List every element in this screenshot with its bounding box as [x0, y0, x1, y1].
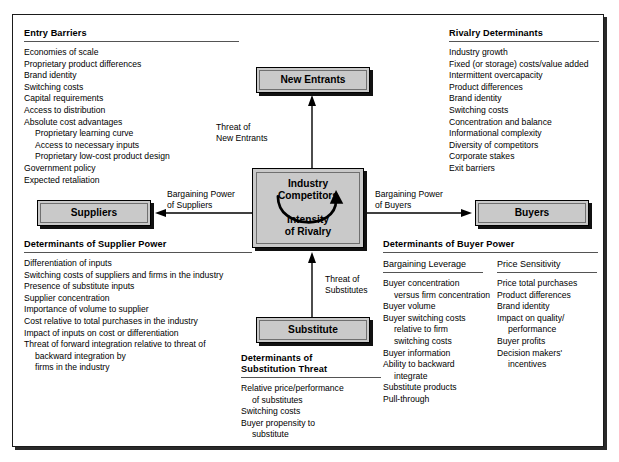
block-determinants-of-substitution-threat-items: Relative price/performanceof substitutes… [241, 383, 381, 441]
list-item: Product differences [449, 82, 599, 94]
node-substitute[interactable]: Substitute [256, 317, 370, 343]
list-item: Pull-through [383, 394, 483, 406]
list-item: Diversity of competitors [449, 140, 599, 152]
list-item: Switching costs [24, 82, 239, 94]
node-suppliers[interactable]: Suppliers [37, 200, 151, 226]
node-new-entrants-inner: New Entrants [259, 70, 367, 90]
list-item: Proprietary learning curve [24, 128, 239, 140]
list-item: Intermittent overcapacity [449, 70, 599, 82]
block-determinants-of-substitution-threat-rule [241, 377, 381, 378]
buyer-power-column-bargaining-leverage: Bargaining Leverage Buyer concentrationv… [383, 258, 483, 406]
list-item: Buyer concentration [383, 278, 483, 290]
list-item: Switching costs of suppliers and firms i… [24, 270, 252, 282]
list-item: substitute [241, 429, 381, 441]
edge-label-bargaining-power-of-suppliers: Bargaining Power of Suppliers [167, 189, 235, 211]
buyer-power-column-bargaining-leverage-heading: Bargaining Leverage [383, 258, 483, 270]
block-determinants-of-substitution-threat-title-line2: Substitution Threat [241, 364, 381, 375]
block-determinants-of-buyer-power-columns: Bargaining Leverage Buyer concentrationv… [383, 258, 598, 406]
block-determinants-of-buyer-power: Determinants of Buyer Power Bargaining L… [383, 239, 598, 406]
list-item: incentives [497, 359, 597, 371]
list-item: Corporate stakes [449, 151, 599, 163]
node-industry-competitors-title-line1: Industry [278, 178, 338, 190]
list-item: relative to firm [383, 324, 483, 336]
list-item: Buyer volume [383, 301, 483, 313]
block-entry-barriers-items: Economies of scaleProprietary product di… [24, 47, 239, 186]
list-item: Buyer profits [497, 336, 597, 348]
node-industry-competitors-subtitle-line2: of Rivalry [285, 226, 331, 238]
list-item: performance [497, 324, 597, 336]
list-item: integrate [383, 371, 483, 383]
edge-label-bargaining-power-of-buyers-line1: Bargaining Power [375, 189, 443, 200]
edge-label-bargaining-power-of-buyers: Bargaining Power of Buyers [375, 189, 443, 211]
node-industry-competitors-title-line2: Competitors [278, 190, 338, 202]
list-item: Capital requirements [24, 93, 239, 105]
list-item: Industry growth [449, 47, 599, 59]
block-determinants-of-supplier-power-title: Determinants of Supplier Power [24, 239, 252, 250]
list-item: Buyer propensity to [241, 418, 381, 430]
block-entry-barriers: Entry Barriers Economies of scaleProprie… [24, 28, 239, 186]
list-item: firms in the industry [24, 362, 252, 374]
node-substitute-inner: Substitute [259, 320, 367, 340]
edge-label-threat-of-substitutes-line1: Threat of [325, 274, 368, 285]
edge-label-bargaining-power-of-suppliers-line2: of Suppliers [167, 200, 235, 211]
list-item: Brand identity [497, 301, 597, 313]
block-determinants-of-supplier-power-items: Differentiation of inputsSwitching costs… [24, 258, 252, 374]
list-item: Price total purchases [497, 278, 597, 290]
block-rivalry-determinants-items: Industry growthFixed (or storage) costs/… [449, 47, 599, 175]
list-item: Proprietary low-cost product design [24, 151, 239, 163]
node-suppliers-label: Suppliers [71, 207, 117, 219]
edge-label-threat-of-substitutes-line2: Substitutes [325, 285, 368, 296]
block-determinants-of-buyer-power-title: Determinants of Buyer Power [383, 239, 598, 250]
buyer-power-column-bargaining-leverage-rule [383, 272, 483, 273]
block-determinants-of-supplier-power: Determinants of Supplier Power Different… [24, 239, 252, 374]
diagram-canvas: New Entrants Substitute Suppliers Buyers… [0, 0, 619, 462]
list-item: Proprietary product differences [24, 59, 239, 71]
list-item: Access to distribution [24, 105, 239, 117]
block-rivalry-determinants-rule [449, 41, 599, 42]
node-industry-competitors-title: Industry Competitors [278, 178, 338, 201]
list-item: Cost relative to total purchases in the … [24, 316, 252, 328]
list-item: of substitutes [241, 395, 381, 407]
list-item: Switching costs [449, 105, 599, 117]
list-item: Differentiation of inputs [24, 258, 252, 270]
list-item: Product differences [497, 290, 597, 302]
list-item: Relative price/performance [241, 383, 381, 395]
buyer-power-column-price-sensitivity-heading: Price Sensitivity [497, 258, 597, 270]
list-item: Decision makers' [497, 348, 597, 360]
buyer-power-column-price-sensitivity-rule [497, 272, 597, 273]
node-buyers-label: Buyers [515, 207, 550, 219]
list-item: Presence of substitute inputs [24, 281, 252, 293]
block-determinants-of-buyer-power-rule [383, 252, 598, 253]
edge-label-bargaining-power-of-buyers-line2: of Buyers [375, 200, 443, 211]
node-new-entrants[interactable]: New Entrants [256, 67, 370, 93]
block-rivalry-determinants: Rivalry Determinants Industry growthFixe… [449, 28, 599, 175]
node-industry-competitors-subtitle-line1: Intensity [285, 214, 331, 226]
list-item: Buyer information [383, 348, 483, 360]
list-item: Brand identity [24, 70, 239, 82]
node-buyers-inner: Buyers [478, 203, 586, 223]
list-item: Switching costs [241, 406, 381, 418]
node-suppliers-inner: Suppliers [40, 203, 148, 223]
node-buyers[interactable]: Buyers [475, 200, 589, 226]
list-item: Importance of volume to supplier [24, 304, 252, 316]
block-entry-barriers-title: Entry Barriers [24, 28, 239, 39]
list-item: Buyer switching costs [383, 313, 483, 325]
list-item: Substitute products [383, 382, 483, 394]
list-item: switching costs [383, 336, 483, 348]
node-industry-competitors[interactable]: Industry Competitors Intensity of Rivalr… [252, 168, 364, 248]
list-item: Absolute cost advantages [24, 117, 239, 129]
list-item: Impact on quality/ [497, 313, 597, 325]
list-item: Supplier concentration [24, 293, 252, 305]
edge-label-bargaining-power-of-suppliers-line1: Bargaining Power [167, 189, 235, 200]
list-item: Impact of inputs on cost or differentiat… [24, 328, 252, 340]
block-entry-barriers-rule [24, 41, 239, 42]
list-item: Fixed (or storage) costs/value added [449, 59, 599, 71]
list-item: Concentration and balance [449, 117, 599, 129]
node-industry-competitors-inner: Industry Competitors Intensity of Rivalr… [256, 172, 360, 244]
list-item: Informational complexity [449, 128, 599, 140]
node-substitute-label: Substitute [288, 324, 338, 336]
edge-label-threat-of-substitutes: Threat of Substitutes [325, 274, 368, 296]
block-rivalry-determinants-title: Rivalry Determinants [449, 28, 599, 39]
block-determinants-of-substitution-threat: Determinants of Substitution Threat Rela… [241, 353, 381, 441]
list-item: Expected retaliation [24, 175, 239, 187]
